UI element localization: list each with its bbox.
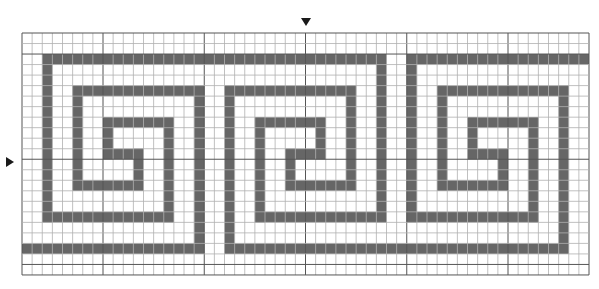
filled-segment bbox=[42, 212, 174, 223]
filled-segment bbox=[255, 212, 387, 223]
filled-segment bbox=[73, 86, 205, 97]
filled-segment bbox=[103, 117, 174, 128]
filled-segment bbox=[407, 212, 539, 223]
filled-segment bbox=[255, 117, 326, 128]
center-column-marker-icon bbox=[301, 18, 311, 26]
filled-segment bbox=[437, 86, 569, 97]
filled-segment bbox=[73, 180, 144, 191]
filled-segment bbox=[225, 86, 357, 97]
filled-segment bbox=[468, 117, 539, 128]
filled-segment bbox=[285, 180, 356, 191]
filled-segment bbox=[437, 180, 508, 191]
center-row-marker-icon bbox=[6, 157, 14, 167]
meander-grid-chart bbox=[0, 0, 599, 289]
